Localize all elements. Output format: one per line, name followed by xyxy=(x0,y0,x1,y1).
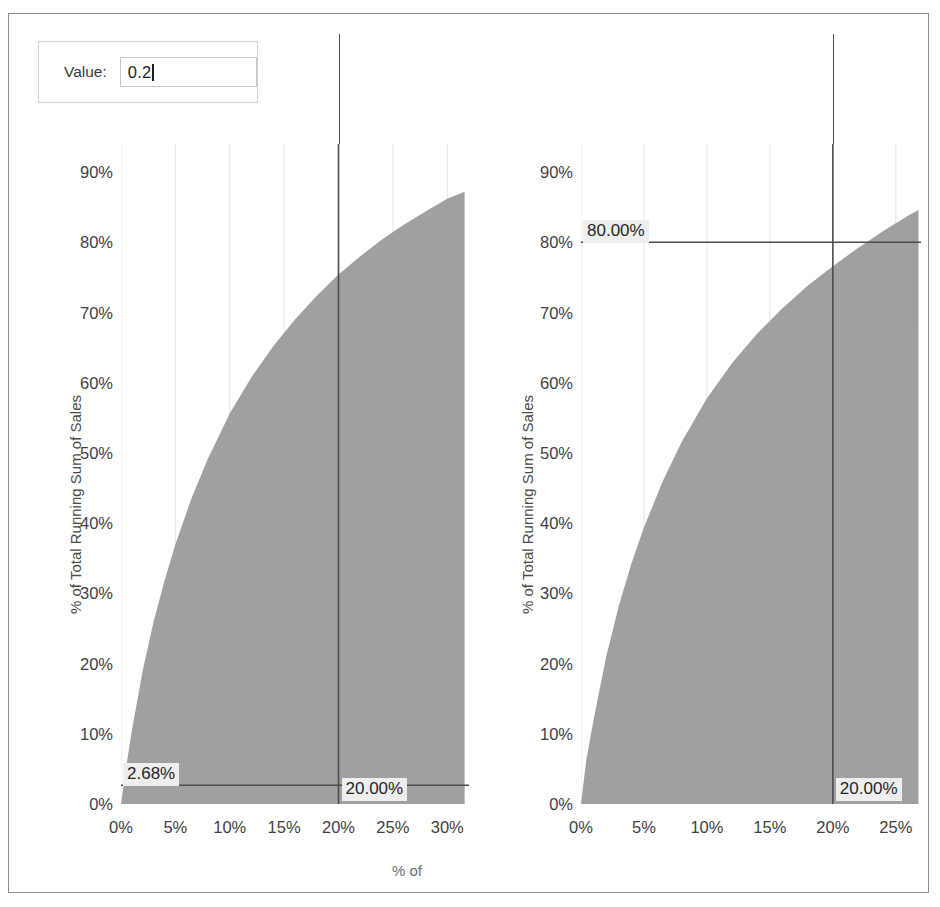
y-axis-tick-label: 30% xyxy=(47,584,113,603)
x-axis-tick-label: 5% xyxy=(632,818,656,837)
vertical-reference-line-extension-left xyxy=(339,34,341,144)
reference-line-label: 80.00% xyxy=(583,220,649,243)
y-axis-tick-label: 0% xyxy=(47,795,113,814)
x-axis-tick-label: 0% xyxy=(109,818,133,837)
plot-area-right: 0%10%20%30%40%50%60%70%80%90%0%5%10%15%2… xyxy=(581,144,921,804)
text-caret-left xyxy=(152,64,154,81)
running-sum-area xyxy=(121,192,465,804)
plot-area-left: 0%10%20%30%40%50%60%70%80%90%0%5%10%15%2… xyxy=(121,144,469,804)
x-axis-tick-label: 25% xyxy=(376,818,409,837)
y-axis-tick-label: 40% xyxy=(507,514,573,533)
value-parameter-input-left[interactable]: 0.2 xyxy=(120,57,257,87)
x-axis-tick-label: 10% xyxy=(690,818,723,837)
x-axis-tick-label: 25% xyxy=(879,818,912,837)
chart-svg xyxy=(121,144,469,804)
y-axis-tick-label: 10% xyxy=(47,724,113,743)
vertical-reference-line-extension-right xyxy=(833,34,835,144)
x-axis-tick-label: 5% xyxy=(163,818,187,837)
x-axis-tick-label: 20% xyxy=(816,818,849,837)
value-parameter-label-left: Value: xyxy=(64,63,107,81)
y-axis-tick-label: 30% xyxy=(507,584,573,603)
y-axis-tick-label: 50% xyxy=(507,443,573,462)
y-axis-tick-label: 90% xyxy=(507,163,573,182)
chart-panel-left: Value: 0.2 % of Total Running Sum of Sal… xyxy=(9,14,479,892)
y-axis-tick-label: 60% xyxy=(507,373,573,392)
value-parameter-control-left[interactable]: Value: 0.2 xyxy=(38,41,258,103)
x-axis-tick-label: 20% xyxy=(322,818,355,837)
y-axis-tick-label: 40% xyxy=(47,514,113,533)
y-axis-tick-label: 10% xyxy=(507,724,573,743)
x-axis-tick-label: 15% xyxy=(268,818,301,837)
x-axis-tick-label: 30% xyxy=(431,818,464,837)
y-axis-tick-label: 0% xyxy=(507,795,573,814)
y-axis-tick-label: 20% xyxy=(47,654,113,673)
y-axis-title-right: % of Total Running Sum of Sales xyxy=(519,395,536,614)
x-axis-tick-label: 15% xyxy=(753,818,786,837)
reference-line-label: 20.00% xyxy=(342,778,408,801)
dashboard-frame: Value: 0.2 % of Total Running Sum of Sal… xyxy=(8,13,929,893)
y-axis-tick-label: 70% xyxy=(47,303,113,322)
y-axis-tick-label: 20% xyxy=(507,654,573,673)
y-axis-tick-label: 90% xyxy=(47,163,113,182)
reference-line-label: 20.00% xyxy=(836,778,902,801)
y-axis-title-left: % of Total Running Sum of Sales xyxy=(67,395,84,614)
reference-line-label: 2.68% xyxy=(123,763,179,786)
x-axis-tick-label: 10% xyxy=(213,818,246,837)
running-sum-area xyxy=(581,210,918,804)
value-parameter-text-left: 0.2 xyxy=(121,63,152,82)
y-axis-tick-label: 50% xyxy=(47,443,113,462)
y-axis-tick-label: 80% xyxy=(47,233,113,252)
x-axis-tick-label: 0% xyxy=(569,818,593,837)
y-axis-tick-label: 80% xyxy=(507,233,573,252)
chart-panel-right: Value: 0.8 % of Total Running Sum of Sal… xyxy=(479,14,930,892)
y-axis-tick-label: 60% xyxy=(47,373,113,392)
x-axis-title-left: % of xyxy=(392,862,466,879)
y-axis-tick-label: 70% xyxy=(507,303,573,322)
